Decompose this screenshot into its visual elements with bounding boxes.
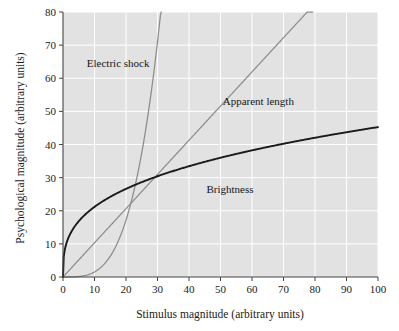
y-tick-label-20: 20: [45, 205, 57, 217]
x-tick-label-70: 70: [278, 283, 290, 295]
x-tick-label-40: 40: [184, 283, 196, 295]
series-label-apparent-length: Apparent length: [223, 95, 295, 107]
y-axis-title: Psychological magnitude (arbitrary units…: [14, 52, 27, 243]
x-tick-label-20: 20: [121, 283, 133, 295]
y-axis-tick-labels: 01020304050607080: [45, 6, 57, 283]
y-tick-label-10: 10: [45, 238, 57, 250]
x-tick-label-50: 50: [215, 283, 227, 295]
y-tick-label-0: 0: [51, 271, 57, 283]
y-tick-label-40: 40: [45, 139, 57, 151]
x-tick-label-10: 10: [89, 283, 101, 295]
y-tick-label-80: 80: [45, 6, 57, 18]
x-tick-label-30: 30: [152, 283, 164, 295]
series-label-brightness: Brightness: [206, 183, 253, 195]
series-label-electric-shock: Electric shock: [87, 57, 150, 69]
x-tick-label-100: 100: [370, 283, 387, 295]
x-tick-label-0: 0: [60, 283, 66, 295]
chart-canvas: 0102030405060708090100 01020304050607080…: [0, 0, 399, 331]
y-tick-label-50: 50: [45, 105, 57, 117]
x-tick-label-90: 90: [341, 283, 353, 295]
y-tick-label-70: 70: [45, 39, 57, 51]
x-tick-label-80: 80: [310, 283, 322, 295]
x-tick-label-60: 60: [247, 283, 259, 295]
y-tick-label-30: 30: [45, 172, 57, 184]
y-tick-label-60: 60: [45, 72, 57, 84]
x-axis-title: Stimulus magnitude (arbitrary units): [136, 308, 304, 321]
stevens-power-law-chart: 0102030405060708090100 01020304050607080…: [0, 0, 399, 331]
